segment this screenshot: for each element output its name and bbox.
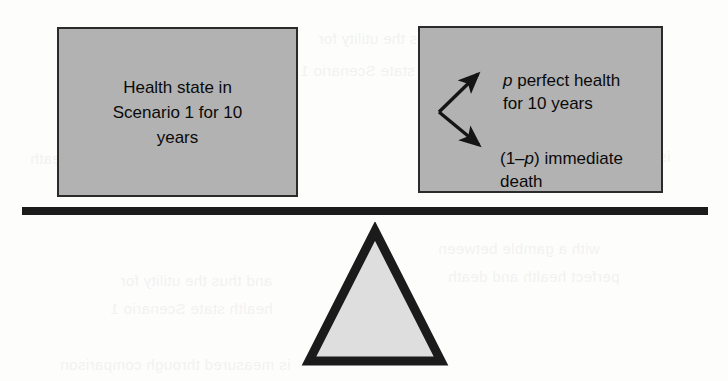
scenario-1-label: Health state in Scenario 1 for 10 years: [78, 75, 278, 150]
balance-beam: [22, 207, 708, 215]
bleed-text-line: perfect health and death: [448, 268, 619, 285]
lower-branch-probability-prefix: (1–: [500, 149, 525, 168]
bleed-text-line: health state Scenario 1: [110, 300, 273, 317]
upper-branch-arrow: [439, 74, 478, 112]
lower-branch-probability: p: [525, 149, 534, 168]
fulcrum-triangle: [300, 222, 450, 370]
lower-branch-arrow: [439, 112, 479, 145]
scenario-1-box: Health state in Scenario 1 for 10 years: [57, 27, 298, 197]
upper-branch-label: p perfect health for 10 years: [503, 46, 663, 115]
gamble-box: p perfect health for 10 years (1–p) imme…: [418, 26, 663, 193]
upper-branch-outcome: perfect health for 10 years: [503, 71, 620, 113]
lower-branch-label: (1–p) immediate death: [500, 124, 665, 193]
bleed-text-line: is measured through comparison: [60, 356, 290, 373]
bleed-text-line: with a gamble between: [438, 240, 600, 257]
standard-gamble-balance-diagram: and thus the utility for health state Sc…: [0, 0, 728, 381]
fulcrum-shape: [309, 231, 441, 361]
bleed-text-line: and thus the utility for: [120, 272, 272, 289]
